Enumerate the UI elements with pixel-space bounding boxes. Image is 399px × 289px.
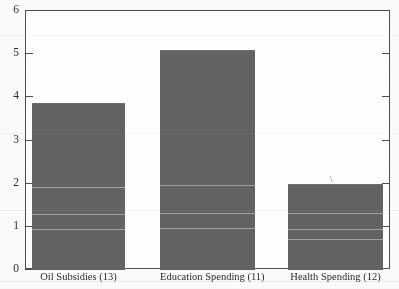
y-tick-right-3 (382, 140, 390, 141)
bar-chart-figure: 6 5 4 3 2 1 0 \ Oil Subsidies (13) Educa… (0, 0, 399, 289)
y-tick-right-2 (382, 183, 390, 184)
y-axis-label-1: 1 (0, 220, 19, 232)
x-axis-label-education-spending: Education Spending (11) (160, 272, 255, 283)
y-axis-label-4: 4 (0, 90, 19, 102)
bar-education-spending (160, 50, 255, 270)
y-tick-6 (25, 10, 33, 11)
y-tick-5 (25, 53, 33, 54)
x-axis-label-health-spending: Health Spending (12) (288, 272, 383, 283)
bar-oil-subsidies (32, 103, 125, 270)
bar-health-spending (288, 184, 383, 270)
y-tick-right-5 (382, 53, 390, 54)
y-axis-label-0: 0 (0, 263, 19, 275)
y-tick-4 (25, 96, 33, 97)
y-tick-right-4 (382, 96, 390, 97)
y-axis-label-6: 6 (0, 4, 19, 16)
y-tick-right-1 (382, 226, 390, 227)
x-axis-label-oil-subsidies: Oil Subsidies (13) (32, 272, 125, 283)
y-axis-label-5: 5 (0, 47, 19, 59)
stray-ink-mark: \ (330, 175, 335, 183)
y-axis-label-2: 2 (0, 177, 19, 189)
y-axis-label-3: 3 (0, 134, 19, 146)
